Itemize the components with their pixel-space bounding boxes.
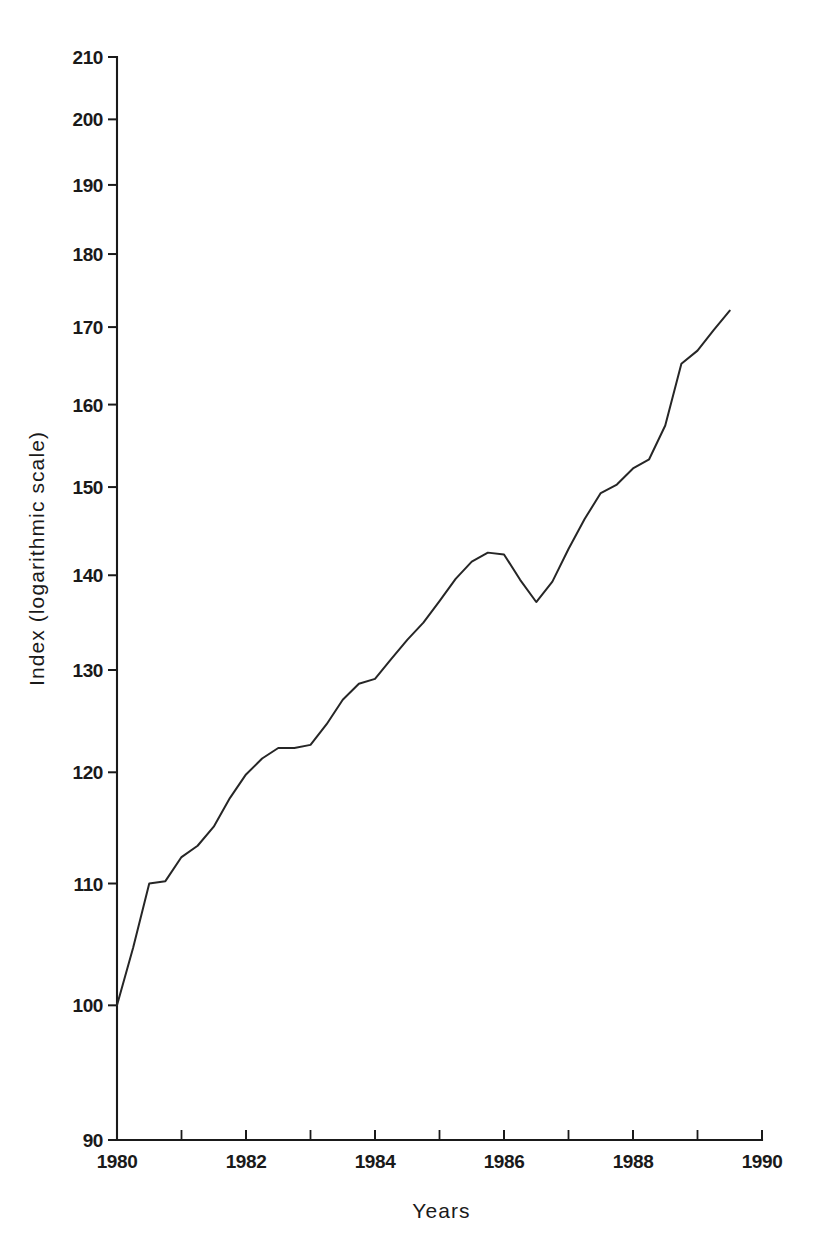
y-axis-tick-label: 140 — [72, 565, 103, 586]
y-axis-tick-label: 130 — [72, 660, 103, 681]
y-axis-tick-label: 200 — [72, 109, 103, 130]
y-axis-tick-label: 180 — [72, 244, 103, 265]
y-axis-tick-label: 110 — [74, 874, 103, 895]
y-axis-tick-label: 120 — [72, 762, 103, 783]
x-axis-title: Years — [412, 1199, 470, 1222]
y-axis-tick-label: 190 — [72, 175, 103, 196]
line-chart: 90100110120130140150160170180190200210 1… — [0, 0, 818, 1249]
y-axis-tick-label: 150 — [72, 477, 103, 498]
x-axis-tick-group: 198019821984198619881990 — [97, 1130, 783, 1172]
y-axis-tick-label: 100 — [72, 995, 103, 1016]
chart-container: 90100110120130140150160170180190200210 1… — [0, 0, 818, 1249]
x-axis-tick-label: 1988 — [613, 1151, 654, 1172]
x-axis-tick-label: 1982 — [226, 1151, 267, 1172]
x-axis-tick-label: 1984 — [355, 1151, 397, 1172]
y-axis-tick-label: 170 — [72, 317, 103, 338]
y-axis-tick-label: 160 — [72, 395, 103, 416]
y-axis-tick-label: 90 — [83, 1130, 103, 1151]
x-axis-tick-label: 1986 — [484, 1151, 525, 1172]
y-axis-tick-group: 90100110120130140150160170180190200210 — [72, 47, 117, 1151]
y-axis-tick-label: 210 — [72, 47, 103, 68]
x-axis-tick-label: 1980 — [97, 1151, 138, 1172]
x-axis-tick-label: 1990 — [742, 1151, 783, 1172]
data-series-line — [117, 311, 730, 1006]
y-axis-title: Index (logarithmic scale) — [25, 431, 48, 686]
